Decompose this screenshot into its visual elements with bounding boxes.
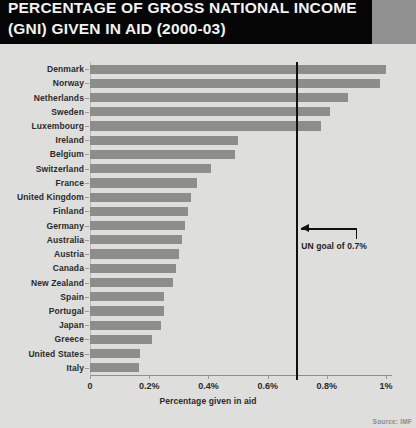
- un-goal-label: UN goal of 0.7%: [301, 241, 367, 251]
- bar-row: United States: [90, 349, 392, 358]
- chart-page: PERCENTAGE OF GROSS NATIONAL INCOME (GNI…: [0, 0, 416, 428]
- bar-rows: DenmarkNorwayNetherlandsSwedenLuxembourg…: [90, 62, 392, 375]
- bar: [90, 292, 164, 301]
- bar-row: New Zealand: [90, 278, 392, 287]
- bar-row: Japan: [90, 321, 392, 330]
- page-title: PERCENTAGE OF GROSS NATIONAL INCOME (GNI…: [8, 0, 372, 39]
- y-tick-mark: [85, 98, 89, 99]
- y-tick-mark: [85, 297, 89, 298]
- x-tick-mark: [90, 375, 91, 379]
- x-tick-label: 0: [87, 381, 92, 391]
- bar-row: Canada: [90, 264, 392, 273]
- category-label: Portugal: [49, 306, 84, 316]
- bar-row: Netherlands: [90, 93, 392, 102]
- bar-row: Switzerland: [90, 164, 392, 173]
- y-tick-mark: [85, 226, 89, 227]
- category-label: Finland: [53, 206, 84, 216]
- y-tick-mark: [85, 240, 89, 241]
- bar: [90, 93, 348, 102]
- bar: [90, 235, 182, 244]
- bar-row: Ireland: [90, 136, 392, 145]
- category-label: Belgium: [50, 149, 84, 159]
- y-tick-mark: [85, 112, 89, 113]
- category-label: Italy: [66, 363, 84, 373]
- bar: [90, 107, 330, 116]
- category-label: Denmark: [47, 64, 84, 74]
- y-tick-mark: [85, 126, 89, 127]
- x-tick-mark: [268, 375, 269, 379]
- category-label: Netherlands: [34, 93, 84, 103]
- bar: [90, 121, 321, 130]
- source-attribution: Source: IMF: [373, 418, 412, 425]
- bar-row: Finland: [90, 207, 392, 216]
- category-label: Luxembourg: [32, 121, 84, 131]
- y-tick-mark: [85, 268, 89, 269]
- bar: [90, 164, 211, 173]
- x-tick-label: 1%: [380, 381, 393, 391]
- bar-row: Denmark: [90, 65, 392, 74]
- y-tick-mark: [85, 140, 89, 141]
- bar-row: Belgium: [90, 150, 392, 159]
- y-tick-mark: [85, 311, 89, 312]
- bar: [90, 221, 185, 230]
- y-tick-mark: [85, 154, 89, 155]
- y-tick-mark: [85, 69, 89, 70]
- bar-row: Luxembourg: [90, 121, 392, 130]
- bar-row: France: [90, 178, 392, 187]
- x-axis-line: [90, 375, 392, 376]
- bar: [90, 207, 188, 216]
- bar: [90, 79, 380, 88]
- category-label: Australia: [47, 235, 84, 245]
- bar-row: Portugal: [90, 306, 392, 315]
- bar: [90, 193, 191, 202]
- bar-row: Greece: [90, 335, 392, 344]
- x-tick-label: 0.4%: [198, 381, 219, 391]
- x-tick-mark: [327, 375, 328, 379]
- y-tick-mark: [85, 368, 89, 369]
- x-tick-label: 0.8%: [317, 381, 338, 391]
- y-tick-mark: [85, 283, 89, 284]
- category-label: Spain: [60, 292, 84, 302]
- y-tick-mark: [85, 354, 89, 355]
- plot-area: DenmarkNorwayNetherlandsSwedenLuxembourg…: [90, 62, 392, 375]
- bar-row: Sweden: [90, 107, 392, 116]
- footer-band: [0, 410, 416, 428]
- category-label: Austria: [54, 249, 84, 259]
- bar: [90, 249, 179, 258]
- category-label: Sweden: [51, 107, 84, 117]
- bar: [90, 150, 235, 159]
- bar: [90, 306, 164, 315]
- x-tick-mark: [149, 375, 150, 379]
- category-label: United Kingdom: [17, 192, 84, 202]
- category-label: United States: [28, 349, 84, 359]
- category-label: Germany: [46, 221, 84, 231]
- bar-row: United Kingdom: [90, 193, 392, 202]
- y-tick-mark: [85, 197, 89, 198]
- bar: [90, 321, 161, 330]
- category-label: Switzerland: [36, 164, 84, 174]
- bar-row: Spain: [90, 292, 392, 301]
- bar: [90, 363, 139, 372]
- bar: [90, 178, 197, 187]
- title-banner: PERCENTAGE OF GROSS NATIONAL INCOME (GNI…: [0, 0, 372, 44]
- y-tick-mark: [85, 169, 89, 170]
- bar: [90, 349, 140, 358]
- un-goal-arrow-icon: [301, 224, 357, 234]
- category-label: Japan: [59, 320, 84, 330]
- bar: [90, 65, 386, 74]
- category-label: Norway: [53, 78, 84, 88]
- y-tick-mark: [85, 339, 89, 340]
- category-label: New Zealand: [31, 278, 84, 288]
- bar-row: Italy: [90, 363, 392, 372]
- x-axis-title: Percentage given in aid: [0, 396, 416, 406]
- x-tick-label: 0.6%: [257, 381, 278, 391]
- category-label: Canada: [53, 263, 84, 273]
- y-tick-mark: [85, 254, 89, 255]
- un-goal-line: [296, 62, 298, 380]
- bar: [90, 335, 152, 344]
- category-label: Ireland: [55, 135, 84, 145]
- y-tick-mark: [85, 183, 89, 184]
- bar-row: Norway: [90, 79, 392, 88]
- bar: [90, 278, 173, 287]
- bar: [90, 264, 176, 273]
